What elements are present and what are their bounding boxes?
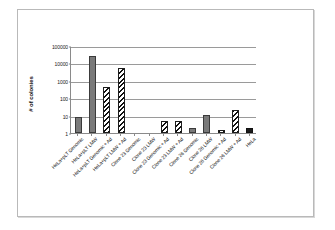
bar xyxy=(203,115,210,133)
x-tick-mark xyxy=(220,134,221,136)
x-tick-mark xyxy=(249,134,250,136)
y-tick-label: 10 xyxy=(63,114,68,120)
y-tick-label: 100000 xyxy=(52,44,68,50)
y-tick-label: 1000 xyxy=(57,79,68,85)
bar xyxy=(103,87,110,133)
y-tick-label: 1 xyxy=(65,131,68,137)
gridline xyxy=(71,82,256,83)
x-tick-mark xyxy=(149,134,150,136)
gridline xyxy=(71,64,256,65)
y-tick-mark xyxy=(69,81,71,82)
bar xyxy=(161,121,168,133)
x-tick-mark xyxy=(192,134,193,136)
y-tick-mark xyxy=(69,47,71,48)
bar xyxy=(189,128,196,133)
gridline xyxy=(71,117,256,118)
figure-frame: # of colonies 110100100010000100000 HeLa… xyxy=(17,9,314,217)
y-tick-mark xyxy=(69,99,71,100)
x-tick-mark xyxy=(206,134,207,136)
bar xyxy=(89,56,96,133)
bar xyxy=(175,121,182,133)
y-tick-mark xyxy=(69,116,71,117)
plot-area: 110100100010000100000 xyxy=(70,47,256,134)
gridline xyxy=(71,99,256,100)
gridline xyxy=(71,47,256,48)
bar xyxy=(232,110,239,133)
y-tick-mark xyxy=(69,64,71,65)
bar xyxy=(218,130,225,133)
x-tick-mark xyxy=(163,134,164,136)
y-tick-label: 10000 xyxy=(55,61,68,67)
x-tick-mark xyxy=(177,134,178,136)
bar xyxy=(118,68,125,133)
x-tick-label: HeLa xyxy=(244,136,256,148)
x-tick-mark xyxy=(235,134,236,136)
x-tick-mark xyxy=(77,134,78,136)
bar xyxy=(75,117,82,133)
x-tick-mark xyxy=(134,134,135,136)
y-axis-title: # of colonies xyxy=(28,76,34,111)
bar-chart: # of colonies 110100100010000100000 HeLa… xyxy=(18,10,313,216)
x-tick-mark xyxy=(120,134,121,136)
x-tick-mark xyxy=(106,134,107,136)
bar xyxy=(246,128,253,133)
y-tick-label: 100 xyxy=(60,96,68,102)
y-tick-mark xyxy=(69,134,71,135)
x-tick-mark xyxy=(91,134,92,136)
